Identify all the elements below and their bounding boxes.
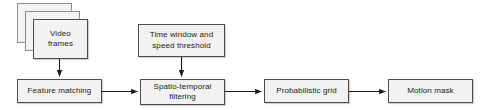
node-video-frames-label-line2: frames [48,39,73,48]
node-feature-matching-label: Feature matching [25,86,95,96]
flowchart-diagram: Videoframes Time window andspeed thresho… [0,0,488,110]
node-time-window-speed-threshold-label-line2: speed threshold [152,41,210,50]
node-video-frames-label-line1: Video [50,29,71,38]
node-spatio-temporal-filtering-label-line2: filtering [169,92,196,101]
node-video-frames[interactable]: Videoframes [33,19,88,59]
node-time-window-speed-threshold[interactable]: Time window andspeed threshold [138,24,225,57]
node-spatio-temporal-filtering[interactable]: Spatio-temporalfiltering [140,79,225,105]
node-spatio-temporal-filtering-label: Spatio-temporalfiltering [151,82,215,102]
node-motion-mask[interactable]: Motion mask [388,79,473,103]
node-time-window-speed-threshold-label-line1: Time window and [150,30,213,39]
node-spatio-temporal-filtering-label-line1: Spatio-temporal [154,82,212,91]
node-feature-matching[interactable]: Feature matching [17,79,102,103]
node-time-window-speed-threshold-label: Time window andspeed threshold [147,30,216,50]
node-motion-mask-label: Motion mask [404,86,456,96]
node-video-frames-label: Videoframes [45,29,76,49]
node-probabilistic-grid[interactable]: Probabilistic grid [264,79,349,103]
node-probabilistic-grid-label: Probabilistic grid [273,86,340,96]
